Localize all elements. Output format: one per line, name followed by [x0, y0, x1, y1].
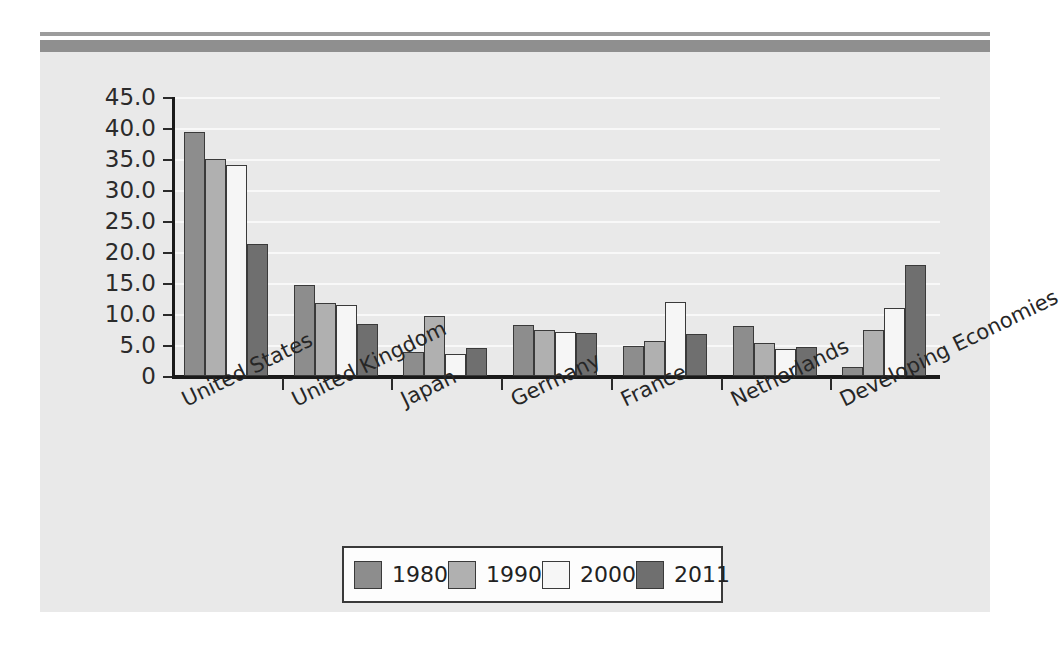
legend-label: 2000	[580, 562, 636, 587]
y-tick-mark	[163, 128, 172, 130]
y-tick-mark	[163, 283, 172, 285]
legend-item[interactable]: 2011	[636, 561, 730, 589]
x-tick-mark	[282, 378, 284, 390]
bar	[686, 334, 707, 376]
legend-item[interactable]: 1980	[354, 561, 448, 589]
y-tick-mark	[163, 314, 172, 316]
y-tick-mark	[163, 159, 172, 161]
x-tick-mark	[721, 378, 723, 390]
y-tick-label: 25.0	[105, 208, 156, 234]
bar	[733, 326, 754, 376]
y-tick-label: 0	[141, 363, 156, 389]
legend-item[interactable]: 1990	[448, 561, 542, 589]
header-rule-thin	[40, 32, 990, 36]
x-tick-mark	[391, 378, 393, 390]
y-tick-label: 10.0	[105, 301, 156, 327]
y-tick-label: 40.0	[105, 115, 156, 141]
chart-legend: 1980199020002011	[342, 546, 723, 603]
bar	[466, 348, 487, 376]
y-tick-mark	[163, 97, 172, 99]
y-tick-mark	[163, 252, 172, 254]
bar	[205, 159, 226, 376]
legend-label: 2011	[674, 562, 730, 587]
legend-label: 1990	[486, 562, 542, 587]
y-tick-mark	[163, 376, 172, 378]
y-tick-label: 45.0	[105, 84, 156, 110]
legend-swatch-icon	[636, 561, 664, 589]
bar-series-container	[172, 97, 940, 376]
bar-group	[513, 97, 597, 376]
y-tick-label: 35.0	[105, 146, 156, 172]
bar	[315, 303, 336, 376]
legend-item[interactable]: 2000	[542, 561, 636, 589]
y-tick-label: 30.0	[105, 177, 156, 203]
header-rule-thick	[40, 40, 990, 52]
bar-group	[733, 97, 817, 376]
bar	[842, 367, 863, 376]
bar-group	[842, 97, 926, 376]
bar-group	[184, 97, 268, 376]
legend-swatch-icon	[448, 561, 476, 589]
y-tick-label: 15.0	[105, 270, 156, 296]
x-tick-mark	[501, 378, 503, 390]
bar	[184, 132, 205, 376]
y-tick-label: 20.0	[105, 239, 156, 265]
chart-canvas: 45.040.035.030.025.020.015.010.05.00 Uni…	[40, 52, 990, 612]
bar	[513, 325, 534, 376]
y-tick-mark	[163, 221, 172, 223]
legend-label: 1980	[392, 562, 448, 587]
legend-swatch-icon	[542, 561, 570, 589]
legend-swatch-icon	[354, 561, 382, 589]
x-tick-mark	[611, 378, 613, 390]
y-tick-mark	[163, 345, 172, 347]
bar	[623, 346, 644, 376]
y-tick-label: 5.0	[119, 332, 156, 358]
bar	[226, 165, 247, 376]
y-tick-mark	[163, 190, 172, 192]
bar-group	[623, 97, 707, 376]
plot-area: 45.040.035.030.025.020.015.010.05.00	[172, 97, 940, 376]
x-tick-mark	[830, 378, 832, 390]
